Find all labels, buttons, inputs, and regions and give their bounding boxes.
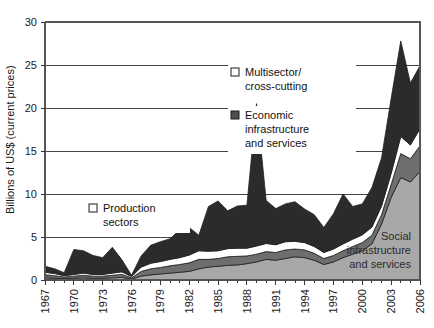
x-tick-label: 1991	[270, 289, 282, 313]
x-tick-label: 1997	[327, 289, 339, 313]
legend-item-production: Production sectors	[86, 199, 190, 233]
y-tick-label: 30	[25, 16, 37, 28]
y-tick-label: 10	[25, 188, 37, 200]
legend-label-economic-line2: infrastructure	[245, 123, 309, 135]
legend-label-multisector-line2: cross-cutting	[245, 80, 307, 92]
y-tick-label: 15	[25, 145, 37, 157]
x-tick-label: 2000	[356, 289, 368, 313]
y-tick-label: 5	[31, 231, 37, 243]
x-tick-label: 1982	[183, 289, 195, 313]
x-tick-label: 2006	[414, 289, 426, 313]
legend-item-multisector: Multisector/ cross-cutting	[228, 63, 356, 97]
legend-label-economic-line3: and services	[245, 137, 307, 149]
legend-label-economic-line1: Economic	[245, 109, 294, 121]
x-tick-label: 1976	[126, 289, 138, 313]
x-tick-label: 2003	[385, 289, 397, 313]
legend-label-production-line2: sectors	[103, 216, 139, 228]
y-tick-label: 20	[25, 102, 37, 114]
y-tick-label: 0	[31, 274, 37, 286]
y-axis-ticks: 051015202530	[25, 16, 45, 286]
x-tick-label: 1985	[212, 289, 224, 313]
inline-label-social-line2: infrastructure	[347, 244, 411, 256]
legend-swatch-multisector	[231, 68, 239, 76]
x-tick-label: 1967	[39, 289, 51, 313]
legend-item-economic: Economic infrastructure and services	[228, 106, 356, 154]
legend-label-production-line1: Production	[103, 202, 156, 214]
legend-label-multisector-line1: Multisector/	[245, 66, 302, 78]
legend-swatch-production	[89, 204, 97, 212]
inline-label-social-line1: Social	[381, 230, 411, 242]
x-tick-label: 1979	[154, 289, 166, 313]
y-axis-title: Billions of US$ (current prices)	[4, 65, 16, 214]
legend-swatch-economic	[231, 111, 239, 119]
x-tick-label: 1994	[299, 289, 311, 313]
x-tick-label: 1970	[68, 289, 80, 313]
x-tick-label: 1988	[241, 289, 253, 313]
chart-figure: 051015202530 196719701973197619791982198…	[0, 0, 434, 328]
stacked-area-chart: 051015202530 196719701973197619791982198…	[0, 0, 434, 328]
inline-label-social-line3: and services	[349, 258, 411, 270]
y-tick-label: 25	[25, 59, 37, 71]
x-tick-label: 1973	[97, 289, 109, 313]
x-axis-ticks: 1967197019731976197919821985198819911994…	[39, 280, 426, 313]
